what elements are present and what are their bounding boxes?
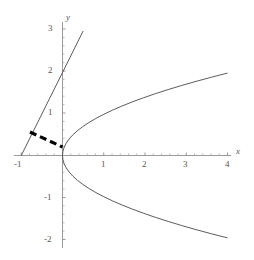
x-tick-label-3: 3	[183, 160, 188, 169]
dashed-highlight-segment	[30, 132, 63, 147]
y-tick-label-2: 2	[48, 66, 53, 75]
x-tick-label-1: 1	[101, 160, 106, 169]
y-tick-label-1: 1	[48, 108, 53, 117]
x-axis-label: x	[236, 147, 240, 156]
parabola-upper-branch	[63, 73, 228, 155]
y-tick-label-minus-1: -1	[44, 193, 52, 202]
x-tick-label-4: 4	[225, 160, 230, 169]
plot-canvas	[0, 0, 254, 260]
x-tick-label-minus-1: -1	[14, 160, 22, 169]
secant-line	[21, 31, 83, 156]
y-tick-label-3: 3	[48, 24, 53, 33]
y-tick-label-minus-2: -2	[44, 235, 52, 244]
x-tick-label-2: 2	[142, 160, 147, 169]
plot-figure: y x 3 2 1 -1 -2 -1 1 2 3 4	[0, 0, 254, 260]
y-axis-label: y	[66, 13, 70, 22]
